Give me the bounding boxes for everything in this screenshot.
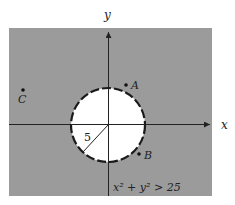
point-c-label: C (18, 93, 27, 106)
x-axis-label: x (221, 118, 228, 132)
radius-label: 5 (84, 131, 91, 144)
point-a-label: A (130, 79, 139, 92)
point-c (21, 88, 25, 92)
point-a (124, 83, 128, 87)
diagram-canvas: y x A B C 5 x² + y² > 25 (0, 0, 235, 205)
y-axis-label: y (103, 8, 111, 22)
point-b (137, 152, 141, 156)
inequality-label: x² + y² > 25 (113, 181, 181, 194)
point-b-label: B (143, 149, 152, 162)
